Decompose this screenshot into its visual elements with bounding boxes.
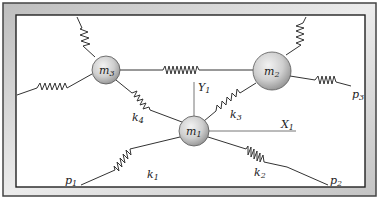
spring-mass-diagram: m3 m2 m1 k1 k2 k3 k4 p1 p2 p3 X1 Y1: [0, 0, 380, 200]
mass-m3: m3: [92, 56, 120, 84]
mass-m1: m1: [179, 116, 209, 146]
outer-frame: [3, 3, 376, 196]
mass-m2: m2: [253, 52, 291, 90]
